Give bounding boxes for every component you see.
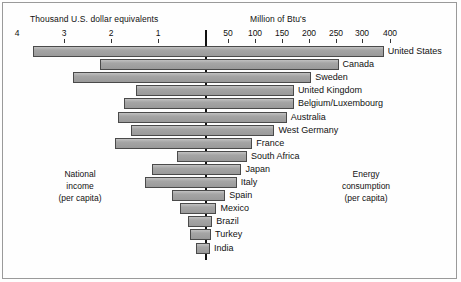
bar-canada[interactable] [100, 59, 338, 70]
bar-row: Canada [0, 59, 461, 70]
bar-sweden[interactable] [73, 72, 311, 83]
right-tick-mark-250 [336, 39, 337, 43]
bar-row: United Kingdom [0, 85, 461, 96]
right-axis-caption: Energy consumption (per capita) [318, 168, 414, 204]
bar-turkey[interactable] [190, 229, 211, 240]
bar-label: South Africa [251, 150, 300, 162]
bar-row: United States [0, 46, 461, 57]
bar-label: France [256, 137, 284, 149]
bar-label: Canada [343, 58, 375, 70]
bar-brazil[interactable] [188, 216, 212, 227]
bar-japan[interactable] [152, 164, 242, 175]
right-tick-label-50: 50 [223, 28, 232, 38]
bar-label: Italy [241, 176, 258, 188]
bar-label: United Kingdom [298, 84, 362, 96]
left-axis-caption: National income (per capita) [38, 168, 122, 204]
bar-india[interactable] [196, 243, 210, 254]
bar-france[interactable] [115, 138, 252, 149]
left-tick-label-4: 4 [15, 28, 20, 38]
right-caption-line-3: (per capita) [318, 192, 414, 204]
bar-label: Australia [291, 111, 326, 123]
bar-row: Sweden [0, 72, 461, 83]
bar-west-germany[interactable] [131, 125, 274, 136]
left-axis-title: Thousand U.S. dollar equivalents [30, 14, 158, 24]
left-tick-mark-2 [111, 39, 112, 43]
right-tick-mark-200 [309, 39, 310, 43]
bar-label: Belgium/Luxembourg [298, 97, 383, 109]
bar-label: Spain [229, 189, 252, 201]
left-tick-mark-3 [64, 39, 65, 43]
right-tick-label-100: 100 [248, 28, 262, 38]
bar-label: Brazil [216, 215, 239, 227]
left-caption-line-2: income [38, 180, 122, 192]
bar-row: Belgium/Luxembourg [0, 98, 461, 109]
bar-row: India [0, 243, 461, 254]
bar-row: West Germany [0, 125, 461, 136]
bar-mexico[interactable] [180, 203, 216, 214]
bar-united-states[interactable] [33, 46, 383, 57]
bar-row: Turkey [0, 229, 461, 240]
bar-south-africa[interactable] [177, 151, 247, 162]
bar-row: Brazil [0, 216, 461, 227]
bar-spain[interactable] [172, 190, 225, 201]
left-tick-label-1: 1 [156, 28, 161, 38]
bar-italy[interactable] [145, 177, 236, 188]
bar-label: Japan [246, 163, 271, 175]
bar-united-kingdom[interactable] [136, 85, 294, 96]
bar-label: United States [388, 45, 442, 57]
bar-label: Turkey [215, 228, 242, 240]
right-tick-label-400: 400 [383, 28, 397, 38]
left-caption-line-3: (per capita) [38, 192, 122, 204]
right-tick-label-200: 200 [302, 28, 316, 38]
left-tick-mark-1 [158, 39, 159, 43]
right-tick-mark-300 [362, 39, 363, 43]
chart-figure: Thousand U.S. dollar equivalents Million… [0, 0, 461, 282]
right-tick-mark-100 [255, 39, 256, 43]
right-caption-line-2: consumption [318, 180, 414, 192]
right-tick-mark-50 [228, 39, 229, 43]
bar-row: South Africa [0, 151, 461, 162]
bar-row: Australia [0, 112, 461, 123]
bar-label: Sweden [315, 71, 348, 83]
bar-belgium-luxembourg[interactable] [124, 98, 294, 109]
right-tick-label-300: 300 [355, 28, 369, 38]
left-tick-label-2: 2 [109, 28, 114, 38]
bar-australia[interactable] [118, 112, 287, 123]
bar-label: India [214, 242, 234, 254]
right-tick-label-150: 150 [275, 28, 289, 38]
right-tick-mark-150 [282, 39, 283, 43]
bar-row: France [0, 138, 461, 149]
bar-label: Mexico [221, 202, 250, 214]
right-tick-mark-400 [390, 39, 391, 43]
bar-row: Mexico [0, 203, 461, 214]
left-caption-line-1: National [38, 168, 122, 180]
bar-label: West Germany [278, 124, 338, 136]
right-axis-title: Million of Btu's [250, 14, 306, 24]
left-tick-label-3: 3 [62, 28, 67, 38]
right-caption-line-1: Energy [318, 168, 414, 180]
right-tick-label-250: 250 [329, 28, 343, 38]
